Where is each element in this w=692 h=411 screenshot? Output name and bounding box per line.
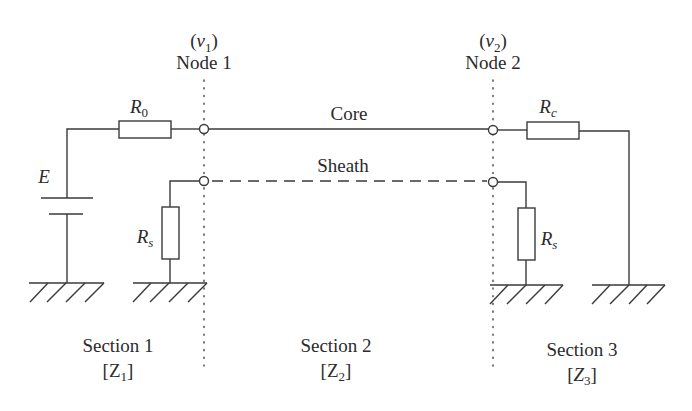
node2-sheath-terminal (489, 178, 498, 187)
ground-icon-rs-right (490, 285, 563, 304)
rs-left-label: Rs (136, 226, 154, 250)
source-label: E (37, 166, 50, 187)
node2-core-terminal (489, 126, 498, 135)
resistor-r0 (119, 121, 171, 138)
ground-icon-rs-left (133, 283, 207, 302)
section2-impedance: [Z2] (321, 360, 352, 384)
section2-label: Section 2 (300, 335, 371, 356)
ground-icon-rc (592, 285, 665, 304)
rs-right-top-wire (497, 182, 526, 208)
section3-impedance: [Z3] (567, 364, 597, 388)
node1-sheath-terminal (200, 177, 209, 186)
sheath-label: Sheath (317, 155, 369, 176)
circuit-svg: (ν1) Node 1 (ν2) Node 2 E R0 Core Sheath… (0, 0, 692, 411)
section3-label: Section 3 (546, 339, 617, 360)
circuit-diagram: (ν1) Node 1 (ν2) Node 2 E R0 Core Sheath… (0, 0, 692, 411)
node1-label: Node 1 (176, 52, 231, 73)
section1-impedance: [Z1] (103, 360, 134, 384)
rc-label: Rc (538, 96, 557, 120)
resistor-rs-right (518, 208, 535, 260)
section1-label: Section 1 (82, 335, 153, 356)
r0-label: R0 (129, 96, 148, 120)
rs-left-top-wire (170, 181, 200, 207)
resistor-rs-left (162, 207, 179, 259)
ground-icon-source (29, 283, 104, 302)
node1-core-terminal (200, 125, 209, 134)
resistor-rc (527, 122, 579, 139)
rs-right-label: Rs (540, 228, 558, 252)
core-label: Core (331, 103, 368, 124)
rc-return-wire (579, 131, 629, 285)
node2-label: Node 2 (465, 52, 520, 73)
source-top-wire (67, 129, 119, 198)
